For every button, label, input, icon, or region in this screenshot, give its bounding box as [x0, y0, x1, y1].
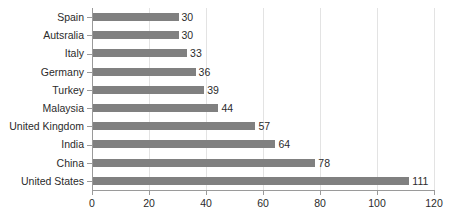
- bar-row: Autsralia30: [0, 26, 460, 44]
- x-axis-tick: [263, 190, 264, 195]
- x-axis-tick-label: 80: [314, 197, 326, 209]
- bar-row: Turkey39: [0, 81, 460, 99]
- y-axis-tick: [87, 108, 92, 109]
- y-axis-tick: [87, 126, 92, 127]
- bar-row: Germany36: [0, 63, 460, 81]
- bar: [93, 140, 275, 148]
- y-axis-tick: [87, 163, 92, 164]
- bar-row: India64: [0, 135, 460, 153]
- x-axis-tick: [206, 190, 207, 195]
- x-axis-tick-label: 40: [200, 197, 212, 209]
- category-label: United States: [0, 175, 84, 187]
- bar-value-label: 30: [182, 29, 194, 41]
- bar-row: United States111: [0, 172, 460, 190]
- bar-row: Spain30: [0, 8, 460, 26]
- bar-value-label: 78: [318, 157, 330, 169]
- category-label: Germany: [0, 66, 84, 78]
- bar-row: United Kingdom57: [0, 117, 460, 135]
- bar: [93, 122, 255, 130]
- category-label: Malaysia: [0, 102, 84, 114]
- bar-value-label: 57: [258, 120, 270, 132]
- bar-rows: Spain30Autsralia30Italy33Germany36Turkey…: [0, 8, 460, 190]
- y-axis-tick: [87, 90, 92, 91]
- bar-value-label: 111: [412, 175, 428, 187]
- bar: [93, 104, 218, 112]
- y-axis-tick: [87, 145, 92, 146]
- x-axis-tick-label: 20: [143, 197, 155, 209]
- bar: [93, 177, 409, 185]
- x-axis-tick: [434, 190, 435, 195]
- bar-row: Italy33: [0, 44, 460, 62]
- category-label: China: [0, 157, 84, 169]
- bar: [93, 68, 196, 76]
- y-axis-tick: [87, 35, 92, 36]
- y-axis-tick: [87, 54, 92, 55]
- y-axis-tick: [87, 181, 92, 182]
- bar: [93, 86, 204, 94]
- x-axis-tick: [377, 190, 378, 195]
- x-axis-tick-label: 100: [368, 197, 386, 209]
- bar-value-label: 36: [199, 66, 211, 78]
- x-axis-tick-label: 120: [425, 197, 443, 209]
- y-axis-tick: [87, 72, 92, 73]
- x-axis-tick: [92, 190, 93, 195]
- bar-row: Malaysia44: [0, 99, 460, 117]
- bar-value-label: 39: [207, 84, 219, 96]
- category-label: Italy: [0, 47, 84, 59]
- bar-row: China78: [0, 154, 460, 172]
- bar-value-label: 30: [182, 11, 194, 23]
- category-label: Turkey: [0, 84, 84, 96]
- category-label: United Kingdom: [0, 120, 84, 132]
- bar-value-label: 44: [221, 102, 233, 114]
- x-axis-tick: [149, 190, 150, 195]
- bar: [93, 49, 187, 57]
- bar-value-label: 64: [278, 138, 290, 150]
- bar-chart: Spain30Autsralia30Italy33Germany36Turkey…: [0, 0, 460, 222]
- x-axis-tick-label: 0: [89, 197, 95, 209]
- bar: [93, 159, 315, 167]
- category-label: Spain: [0, 11, 84, 23]
- y-axis-tick: [87, 17, 92, 18]
- category-label: India: [0, 138, 84, 150]
- bar: [93, 31, 179, 39]
- x-axis-tick: [320, 190, 321, 195]
- bar-value-label: 33: [190, 47, 202, 59]
- bar: [93, 13, 179, 21]
- category-label: Autsralia: [0, 29, 84, 41]
- x-axis-tick-label: 60: [257, 197, 269, 209]
